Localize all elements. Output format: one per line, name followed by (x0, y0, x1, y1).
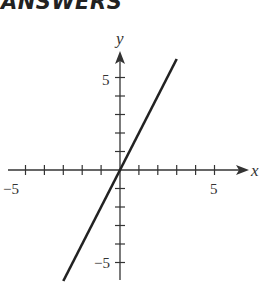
x-axis-label: x (250, 161, 259, 180)
y-tick-label-neg5: −5 (94, 255, 110, 271)
chart: x y −5 5 5 −5 (0, 0, 262, 282)
y-tick-label-pos5: 5 (102, 72, 110, 88)
x-axis (8, 165, 249, 175)
x-tick-label-neg5: −5 (3, 181, 19, 197)
x-tick-label-pos5: 5 (210, 181, 218, 197)
y-axis-label: y (114, 29, 124, 48)
